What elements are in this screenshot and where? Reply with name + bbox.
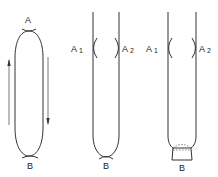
tube-outline [93, 12, 119, 157]
label-a: A [25, 15, 31, 25]
label-a1: A1 [71, 44, 83, 54]
figure-open-tube: A1 A2 B [71, 12, 134, 171]
label-b: B [103, 161, 109, 171]
tube-outline [168, 12, 196, 148]
loop-outline [15, 31, 43, 156]
figure-loop: A B [7, 15, 49, 171]
label-b: B [179, 163, 185, 173]
label-b: B [27, 161, 33, 171]
cut-mark-top [22, 29, 36, 31]
cap-dashed-top [173, 145, 191, 149]
cut-arc-right [192, 38, 196, 58]
diagram: A B A1 A2 B [0, 0, 218, 177]
label-a2: A2 [122, 44, 134, 54]
arrow-up-icon [7, 59, 10, 125]
arrow-down-icon [46, 57, 49, 125]
cut-arc-left [169, 38, 173, 58]
figure-capped-tube: A1 A2 B [146, 12, 211, 173]
cut-mark-bottom [22, 156, 38, 158]
cut-arc-right [115, 38, 119, 58]
cut-mark-bottom [99, 157, 113, 160]
label-a2: A2 [199, 44, 211, 54]
label-a1: A1 [146, 44, 158, 54]
cut-arc-left [94, 38, 98, 58]
